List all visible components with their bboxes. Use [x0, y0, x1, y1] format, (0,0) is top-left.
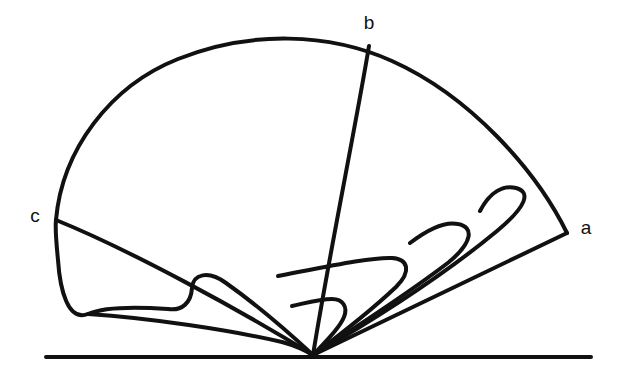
label-a: a [581, 217, 592, 238]
figure-background [0, 0, 620, 384]
label-b: b [364, 12, 375, 33]
figure-canvas: bca [0, 0, 620, 384]
label-c: c [30, 205, 40, 226]
geometric-line-diagram: bca [0, 0, 620, 384]
